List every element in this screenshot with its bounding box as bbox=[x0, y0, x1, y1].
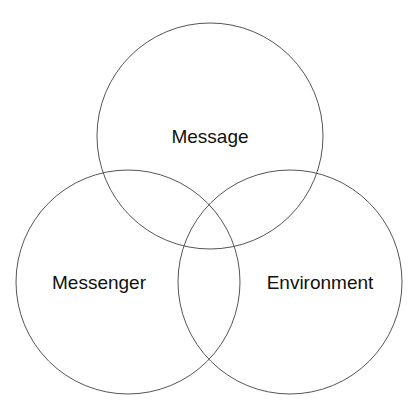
label-environment: Environment bbox=[267, 272, 374, 293]
label-messenger: Messenger bbox=[52, 272, 147, 293]
label-message: Message bbox=[171, 126, 248, 147]
venn-diagram: Message Messenger Environment bbox=[0, 0, 416, 415]
